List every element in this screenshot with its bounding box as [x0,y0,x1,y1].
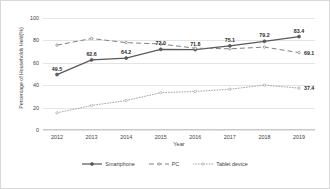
series-end-label: 37.4 [304,85,314,91]
data-point-marker [159,48,162,51]
legend-key-icon [193,161,213,167]
data-label: 83.4 [294,28,304,34]
data-point-marker [298,35,301,38]
legend-label: PC [172,161,180,167]
data-point-marker [125,57,128,60]
legend-label: Smartphone [105,161,134,167]
x-tick-label: 2015 [155,134,167,140]
data-point-marker [229,48,231,50]
data-point-marker [90,58,93,61]
gridline [43,130,315,131]
series-lines [43,18,315,130]
data-label: 75.1 [225,37,235,43]
y-tick-label: 80 [33,37,39,43]
data-point-marker [194,90,196,92]
y-axis-title: Percentage of Households Held(%) [9,11,23,131]
series-end-label: 69.1 [304,50,314,56]
data-point-marker [298,51,300,53]
data-label: 49.5 [52,66,62,72]
data-point-marker [90,37,92,39]
y-tick-label: 40 [33,82,39,88]
data-point-marker [56,73,59,76]
x-tick-label: 2014 [120,134,132,140]
data-point-marker [56,112,58,114]
data-label: 64.2 [121,49,131,55]
legend-item-smartphone[interactable]: Smartphone [82,161,134,167]
chart-container: Percentage of Households Held(%) 0204060… [0,0,330,189]
data-point-marker [263,84,265,86]
data-point-marker [125,99,127,101]
data-point-marker [229,88,231,90]
x-tick-label: 2017 [224,134,236,140]
x-tick-label: 2013 [86,134,98,140]
x-axis-title: Year [43,141,315,147]
legend-key-icon [82,161,102,167]
data-point-marker [125,41,127,43]
data-point-marker [263,46,265,48]
x-tick-label: 2016 [189,134,201,140]
legend-key-icon [149,161,169,167]
y-tick-label: 20 [33,105,39,111]
data-label: 62.6 [86,51,96,57]
x-tick-label: 2012 [51,134,63,140]
y-axis-title-text: Percentage of Households Held(%) [18,8,24,128]
x-tick-label: 2018 [258,134,270,140]
chart-legend: SmartphonePCTablet device [1,161,329,167]
data-label: 72.0 [156,40,166,46]
legend-label: Tablet device [216,161,247,167]
y-tick-label: 0 [36,127,39,133]
data-point-marker [263,40,266,43]
data-label: 71.8 [190,41,200,47]
legend-item-tablet-device[interactable]: Tablet device [193,161,247,167]
y-tick-label: 100 [30,15,39,21]
series-line [57,85,299,113]
x-tick-label: 2019 [293,134,305,140]
plot-area: 020406080100 201220132014201520162017201… [43,18,315,130]
data-label: 79.2 [259,32,269,38]
data-point-marker [228,44,231,47]
data-point-marker [194,47,196,49]
y-tick-label: 60 [33,60,39,66]
data-point-marker [298,87,300,89]
data-point-marker [56,44,58,46]
data-point-marker [160,92,162,94]
data-point-marker [90,104,92,106]
legend-item-pc[interactable]: PC [149,161,180,167]
